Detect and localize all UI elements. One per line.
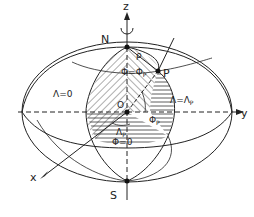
- north-pole-label: N: [101, 33, 109, 46]
- x-arrow-icon: [40, 171, 48, 179]
- z-arrow-icon: [124, 12, 130, 20]
- y-axis-label: y: [241, 107, 248, 120]
- point-p-label: P: [163, 67, 170, 80]
- rho-label: ρ: [136, 50, 142, 60]
- sphere-coordinate-diagram: z y x N S O P ρ Φ=ΦP Λ=0 Λ=ΛP ΦP ΛP Φ=0: [0, 0, 254, 217]
- z-axis-label: z: [123, 0, 129, 13]
- meridian-zero-label: Λ=0: [53, 89, 73, 99]
- x-axis-label: x: [30, 171, 37, 184]
- meridian-p-label: Λ=ΛP: [170, 95, 194, 106]
- point-p: [156, 69, 161, 74]
- equator-label: Φ=0: [112, 137, 133, 147]
- south-pole-point: [125, 179, 130, 184]
- south-pole-label: S: [110, 189, 117, 202]
- origin-label: O: [117, 100, 124, 110]
- hatched-regions: [86, 47, 174, 145]
- origin-point: [125, 110, 130, 115]
- north-pole-point: [125, 45, 130, 50]
